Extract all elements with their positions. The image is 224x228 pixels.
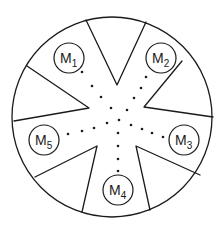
module-m2: M2 xyxy=(146,43,176,73)
path-dot-m2 xyxy=(140,87,143,90)
path-dot-m5 xyxy=(67,133,70,136)
module-m3: M3 xyxy=(169,125,199,155)
path-dot-m5 xyxy=(93,127,96,130)
path-dot-m2 xyxy=(126,109,129,112)
module-m4: M4 xyxy=(103,175,133,205)
wedge-lower-left xyxy=(35,146,97,212)
path-dot-center xyxy=(106,122,109,125)
path-dot-m1 xyxy=(81,71,84,74)
path-dot-m3 xyxy=(151,132,154,135)
modules: M1 M2 M3 M4 M5 xyxy=(29,43,199,205)
path-dot-m1 xyxy=(100,96,103,99)
dot-paths xyxy=(67,71,165,173)
path-dot-center xyxy=(130,124,133,127)
wedge-top xyxy=(86,20,146,85)
chamber-diagram: M1 M2 M3 M4 M5 xyxy=(0,0,224,228)
path-dot-m3 xyxy=(141,128,144,131)
path-dot-m3 xyxy=(162,136,165,139)
path-dot-m4 xyxy=(117,132,120,135)
path-dot-m4 xyxy=(117,170,120,173)
path-dot-m4 xyxy=(117,158,120,161)
module-m1: M1 xyxy=(54,43,84,73)
path-dot-m1 xyxy=(91,85,94,88)
path-dot-m2 xyxy=(133,97,136,100)
diagram-stage: M1 M2 M3 M4 M5 xyxy=(0,0,224,228)
path-dot-center xyxy=(118,119,121,122)
module-m5: M5 xyxy=(29,125,59,155)
wedge-left xyxy=(14,66,89,121)
path-dot-m1 xyxy=(110,107,113,110)
path-dot-m2 xyxy=(145,76,148,79)
path-dot-m4 xyxy=(117,145,120,148)
path-dot-m5 xyxy=(81,130,84,133)
